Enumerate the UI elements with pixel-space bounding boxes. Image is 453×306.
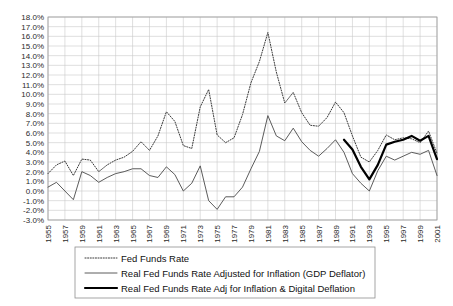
y-axis-tick-label: 9.0%	[26, 100, 44, 109]
x-axis-tick-label: 1985	[298, 224, 307, 242]
x-axis-tick-label: 1977	[230, 224, 239, 242]
y-axis-tick-label: -2.0%	[23, 206, 44, 215]
y-axis-tick-label: 12.0%	[21, 71, 44, 80]
y-axis-tick-label: 7.0%	[26, 119, 44, 128]
y-axis-tick-label: 17.0%	[21, 23, 44, 32]
chart-legend: Fed Funds RateReal Fed Funds Rate Adjust…	[75, 247, 375, 298]
fed-funds-rate-line-chart: 18.0%17.0%16.0%15.0%14.0%13.0%12.0%11.0%…	[0, 0, 453, 306]
y-axis-tick-label: 18.0%	[21, 13, 44, 22]
y-axis-tick-labels: 18.0%17.0%16.0%15.0%14.0%13.0%12.0%11.0%…	[21, 13, 44, 225]
x-axis-tick-label: 1963	[112, 224, 121, 242]
x-axis-tick-label: 1975	[213, 224, 222, 242]
y-axis-tick-label: 3.0%	[26, 158, 44, 167]
x-axis-tick-label: 1983	[281, 224, 290, 242]
x-axis-tick-labels: 1955195719591961196319651967196919711973…	[44, 224, 442, 242]
legend-item-label: Real Fed Funds Rate Adj for Inflation & …	[121, 283, 355, 294]
x-axis-tick-label: 1993	[365, 224, 374, 242]
x-axis-tick-label: 1989	[332, 224, 341, 242]
y-axis-tick-label: 4.0%	[26, 148, 44, 157]
plot-area-border	[48, 17, 437, 220]
x-axis-tick-label: 1973	[196, 224, 205, 242]
x-axis-tick-label: 1991	[348, 224, 357, 242]
y-axis-tick-label: -1.0%	[23, 197, 44, 206]
x-axis-tick-label: 1987	[315, 224, 324, 242]
x-axis-tick-label: 1981	[264, 224, 273, 242]
x-axis-tick-label: 1959	[78, 224, 87, 242]
x-axis-tick-label: 1997	[399, 224, 408, 242]
x-axis-tick-label: 1961	[95, 224, 104, 242]
y-axis-tick-label: 11.0%	[22, 81, 44, 90]
x-axis-tick-label: 1967	[145, 224, 154, 242]
x-axis-tick-label: 1999	[416, 224, 425, 242]
x-axis-tick-label: 1957	[61, 224, 70, 242]
x-axis-tick-label: 1965	[129, 224, 138, 242]
y-axis-tick-label: 16.0%	[21, 32, 44, 41]
x-axis-tick-label: 1979	[247, 224, 256, 242]
y-axis-tick-label: 6.0%	[26, 129, 44, 138]
x-axis-tick-label: 1955	[44, 224, 53, 242]
chart-container: 18.0%17.0%16.0%15.0%14.0%13.0%12.0%11.0%…	[0, 0, 453, 306]
legend-item-label: Real Fed Funds Rate Adjusted for Inflati…	[121, 268, 365, 279]
data-series-layer	[48, 32, 437, 209]
y-axis-tick-label: 15.0%	[21, 42, 44, 51]
y-axis-tick-label: 5.0%	[26, 139, 44, 148]
grid-lines	[48, 17, 437, 220]
x-axis-tick-label: 1995	[382, 224, 391, 242]
y-axis-tick-label: 0.0%	[26, 187, 44, 196]
x-axis-tick-label: 1971	[179, 224, 188, 242]
x-axis-tick-label: 2001	[433, 224, 442, 242]
x-axis-tick-label: 1969	[162, 224, 171, 242]
y-axis-tick-label: 10.0%	[21, 90, 44, 99]
y-axis-tick-label: 1.0%	[26, 177, 44, 186]
y-axis-tick-label: 13.0%	[21, 61, 44, 70]
y-axis-tick-label: 8.0%	[26, 110, 44, 119]
y-axis-tick-label: -3.0%	[23, 216, 44, 225]
y-axis-tick-label: 2.0%	[26, 168, 44, 177]
legend-item-label: Fed Funds Rate	[121, 253, 189, 264]
y-axis-tick-label: 14.0%	[21, 52, 44, 61]
